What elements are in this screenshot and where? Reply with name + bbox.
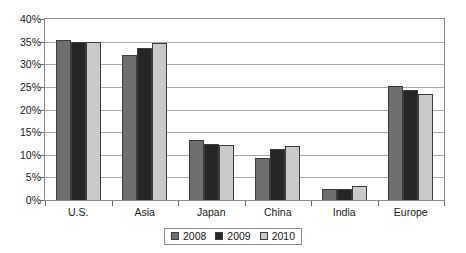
y-axis-tick-label: 30% bbox=[1, 59, 41, 70]
x-axis-tick-mark bbox=[311, 201, 312, 206]
legend-label: 2009 bbox=[227, 231, 250, 242]
x-axis-tick-mark bbox=[45, 201, 46, 206]
bar bbox=[152, 43, 167, 200]
bar-group bbox=[178, 19, 245, 200]
y-axis-tick-label: 0% bbox=[1, 195, 41, 206]
legend-entry: 2008 bbox=[171, 231, 206, 242]
legend-label: 2008 bbox=[183, 231, 206, 242]
y-axis-tick-label: 40% bbox=[1, 14, 41, 25]
x-axis-tick-mark bbox=[178, 201, 179, 206]
y-axis-tick-label: 10% bbox=[1, 150, 41, 161]
bar-group bbox=[112, 19, 179, 200]
bar-group bbox=[245, 19, 312, 200]
bar bbox=[352, 186, 367, 200]
y-axis-tick-label: 25% bbox=[1, 82, 41, 93]
legend-swatch-icon bbox=[260, 232, 268, 240]
bar-group bbox=[378, 19, 445, 200]
bar bbox=[388, 86, 403, 200]
bar bbox=[56, 40, 71, 200]
x-axis-tick-mark bbox=[112, 201, 113, 206]
bar bbox=[270, 149, 285, 200]
x-axis-tick-mark bbox=[444, 201, 445, 206]
bars-layer bbox=[45, 19, 444, 200]
bar bbox=[122, 55, 137, 200]
x-axis-category-label: Europe bbox=[371, 207, 451, 219]
legend-swatch-icon bbox=[215, 232, 223, 240]
bar bbox=[204, 144, 219, 200]
y-axis-tick-label: 35% bbox=[1, 36, 41, 47]
bar bbox=[189, 140, 204, 200]
y-axis-tick-label: 5% bbox=[1, 172, 41, 183]
bar bbox=[71, 42, 86, 200]
legend-swatch-icon bbox=[171, 232, 179, 240]
bar bbox=[285, 146, 300, 200]
x-axis-tick-mark bbox=[245, 201, 246, 206]
bar-chart: 0%5%10%15%20%25%30%35%40% U.S.AsiaJapanC… bbox=[0, 0, 466, 253]
y-axis-tick-label: 15% bbox=[1, 127, 41, 138]
bar bbox=[322, 189, 337, 200]
y-axis-tick-label: 20% bbox=[1, 104, 41, 115]
x-axis-tick-mark bbox=[378, 201, 379, 206]
chart-legend: 200820092010 bbox=[164, 228, 302, 245]
bar bbox=[418, 94, 433, 200]
bar bbox=[255, 158, 270, 200]
bar bbox=[137, 48, 152, 200]
legend-entry: 2010 bbox=[260, 231, 295, 242]
bar-group bbox=[45, 19, 112, 200]
bar bbox=[337, 189, 352, 200]
bar bbox=[86, 42, 101, 200]
legend-label: 2010 bbox=[272, 231, 295, 242]
bar bbox=[219, 145, 234, 200]
bar-group bbox=[311, 19, 378, 200]
bar bbox=[403, 90, 418, 200]
legend-entry: 2009 bbox=[215, 231, 250, 242]
